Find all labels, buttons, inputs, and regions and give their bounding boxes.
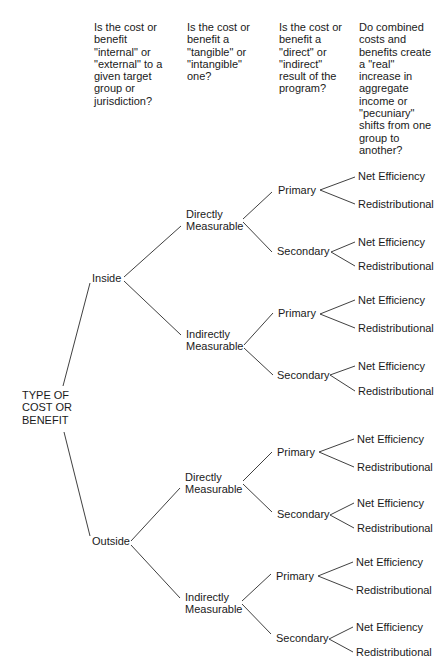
node-primary: Primary (277, 446, 315, 458)
leaf-redistributional: Redistributional (356, 646, 432, 658)
node-primary: Primary (278, 307, 316, 319)
leaf-redistributional: Redistributional (357, 522, 433, 534)
leaf-net-efficiency: Net Efficiency (357, 497, 424, 509)
leaf-redistributional: Redistributional (356, 584, 432, 596)
root-type-of-cost-or-benefit: TYPE OF COST OR BENEFIT (22, 389, 72, 426)
leaf-net-efficiency: Net Efficiency (358, 294, 425, 306)
node-secondary: Secondary (277, 245, 330, 257)
node-inside-indirectly-measurable: Indirectly Measurable (186, 328, 243, 353)
node-secondary: Secondary (277, 369, 330, 381)
leaf-redistributional: Redistributional (358, 385, 434, 397)
leaf-redistributional: Redistributional (358, 322, 434, 334)
leaf-redistributional: Redistributional (358, 198, 434, 210)
node-inside: Inside (92, 272, 121, 284)
node-outside-directly-measurable: Directly Measurable (185, 471, 242, 496)
leaf-net-efficiency: Net Efficiency (358, 170, 425, 182)
node-primary: Primary (278, 184, 316, 196)
leaf-redistributional: Redistributional (358, 260, 434, 272)
leaf-net-efficiency: Net Efficiency (356, 621, 423, 633)
leaf-redistributional: Redistributional (357, 461, 433, 473)
leaf-net-efficiency: Net Efficiency (356, 556, 423, 568)
node-secondary: Secondary (277, 508, 330, 520)
node-secondary: Secondary (276, 632, 329, 644)
node-inside-directly-measurable: Directly Measurable (186, 208, 243, 233)
leaf-net-efficiency: Net Efficiency (358, 236, 425, 248)
leaf-net-efficiency: Net Efficiency (357, 433, 424, 445)
node-primary: Primary (276, 570, 314, 582)
node-outside-indirectly-measurable: Indirectly Measurable (185, 591, 242, 616)
node-outside: Outside (92, 535, 130, 547)
leaf-net-efficiency: Net Efficiency (358, 360, 425, 372)
